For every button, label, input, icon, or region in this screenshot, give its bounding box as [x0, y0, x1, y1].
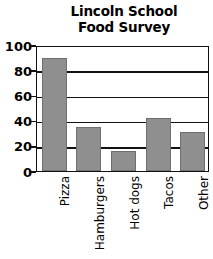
bar-tacos — [146, 118, 171, 171]
y-axis-tick-label: 60 — [0, 90, 32, 103]
y-axis-tick-label: 80 — [0, 65, 32, 78]
chart-title: Lincoln School Food Survey — [36, 3, 212, 35]
x-axis-category-label: Hot dogs — [129, 176, 141, 230]
chart-title-line-2: Food Survey — [36, 19, 212, 35]
bar-hot-dogs — [111, 151, 136, 171]
x-axis-category-label: Other — [198, 176, 210, 210]
bar-chart: Lincoln School Food Survey 020406080100 … — [0, 0, 213, 259]
y-axis-tick-label: 0 — [0, 166, 32, 179]
y-axis-tick-label: 20 — [0, 140, 32, 153]
bar-hamburgers — [76, 127, 101, 171]
bar-other — [180, 132, 205, 171]
x-axis-category-label: Pizza — [59, 176, 71, 206]
bar-pizza — [42, 58, 67, 171]
x-axis-category-label: Hamburgers — [94, 176, 106, 250]
plot-area — [36, 46, 209, 172]
y-axis-tick-label: 100 — [0, 40, 32, 53]
y-axis-tick-label: 40 — [0, 115, 32, 128]
x-axis-category-label: Tacos — [163, 176, 175, 209]
chart-title-line-1: Lincoln School — [36, 3, 212, 19]
